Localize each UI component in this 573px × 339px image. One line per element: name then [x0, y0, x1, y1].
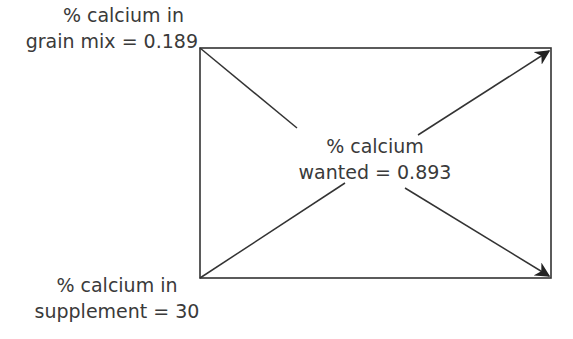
grain-mix-label-line2: grain mix = 0.189	[26, 30, 198, 52]
supplement-label: % calcium in supplement = 30	[22, 272, 212, 324]
wanted-label: % calcium wanted = 0.893	[285, 133, 465, 185]
grain-mix-label-line1: % calcium in	[18, 2, 198, 28]
wanted-label-line2: wanted = 0.893	[285, 159, 465, 185]
diagonal-tl-segment	[200, 48, 297, 128]
arrow-to-top-right	[418, 51, 549, 135]
supplement-label-line2: supplement = 30	[22, 298, 212, 324]
supplement-label-line1: % calcium in	[22, 272, 212, 298]
grain-mix-label: % calcium in grain mix = 0.189	[18, 2, 198, 54]
arrow-to-bottom-right	[405, 188, 549, 276]
diagonal-bl-segment	[200, 183, 345, 278]
wanted-label-line1: % calcium	[285, 133, 465, 159]
